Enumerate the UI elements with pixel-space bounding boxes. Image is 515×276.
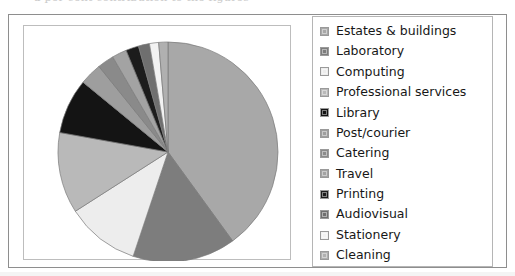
page-bottom-edge (0, 272, 515, 276)
legend-swatch-icon (320, 67, 329, 76)
legend-item[interactable]: Cleaning (320, 245, 492, 265)
legend-item[interactable]: Library (320, 103, 492, 123)
figure-frame: Estates & buildings Laboratory Computing… (8, 14, 507, 268)
legend-item-label: Post/courier (336, 127, 410, 140)
legend-item[interactable]: Post/courier (320, 123, 492, 143)
legend-item[interactable]: Travel (320, 164, 492, 184)
pie-chart-plot-area (23, 25, 291, 260)
legend-item[interactable]: Catering (320, 143, 492, 163)
legend-swatch-icon (320, 149, 329, 158)
legend-item-label: Cleaning (336, 249, 391, 262)
legend-item-label: Library (336, 107, 380, 120)
legend-item[interactable]: Computing (320, 62, 492, 82)
legend-swatch-icon (320, 108, 329, 117)
legend-item[interactable]: Printing (320, 184, 492, 204)
legend-swatch-icon (320, 27, 329, 36)
legend: Estates & buildings Laboratory Computing… (312, 16, 493, 267)
legend-swatch-icon (320, 190, 329, 199)
legend-item[interactable]: Laboratory (320, 41, 492, 61)
legend-item-label: Travel (336, 168, 373, 181)
legend-swatch-icon (320, 129, 329, 138)
legend-item-label: Audiovisual (336, 208, 408, 221)
pie-chart-svg (24, 26, 292, 261)
legend-item[interactable]: Professional services (320, 82, 492, 102)
legend-swatch-icon (320, 169, 329, 178)
legend-swatch-icon (320, 231, 329, 240)
legend-item-label: Stationery (336, 229, 401, 242)
legend-item-label: Professional services (336, 86, 466, 99)
scanned-header-fragment: a per cent contribution to the figures (34, 0, 249, 4)
legend-swatch-icon (320, 210, 329, 219)
scanned-header-text: a per cent contribution to the figures (0, 0, 515, 13)
legend-item[interactable]: Stationery (320, 225, 492, 245)
legend-item-label: Catering (336, 147, 389, 160)
legend-swatch-icon (320, 88, 329, 97)
legend-item[interactable]: Audiovisual (320, 205, 492, 225)
legend-swatch-icon (320, 251, 329, 260)
legend-item-label: Printing (336, 188, 384, 201)
legend-item[interactable]: Estates & buildings (320, 21, 492, 41)
pie-chart (24, 26, 292, 261)
legend-item-label: Estates & buildings (336, 25, 456, 38)
legend-item-label: Laboratory (336, 45, 404, 58)
legend-item-label: Computing (336, 66, 405, 79)
legend-swatch-icon (320, 47, 329, 56)
